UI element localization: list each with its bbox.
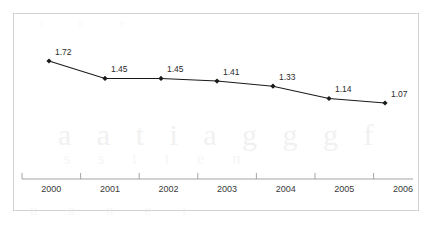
data-point-marker (326, 96, 331, 101)
data-point-marker (46, 58, 51, 63)
x-axis-label-2006: 2006 (383, 185, 423, 194)
chart-plot-area (0, 0, 432, 230)
x-axis-label-2002: 2002 (149, 185, 189, 194)
data-point-marker (158, 76, 163, 81)
data-point-label: 1.41 (223, 68, 240, 77)
data-point-label: 1.45 (111, 65, 128, 74)
x-axis-label-2000: 2000 (31, 185, 71, 194)
data-point-label: 1.07 (391, 90, 408, 99)
chart-canvas: a a t i a g g g f s s t t e n u a n e t … (0, 0, 432, 230)
data-point-marker (102, 76, 107, 81)
series-line-group (46, 58, 387, 105)
x-axis-label-2004: 2004 (266, 185, 306, 194)
data-point-label: 1.33 (279, 73, 296, 82)
x-axis-label-2003: 2003 (207, 185, 247, 194)
data-point-marker (214, 78, 219, 83)
x-axis-label-2005: 2005 (324, 185, 364, 194)
x-axis-label-2001: 2001 (90, 185, 130, 194)
data-point-label: 1.45 (167, 65, 184, 74)
data-point-marker (270, 84, 275, 89)
x-axis-group (22, 173, 413, 179)
data-point-label: 1.72 (55, 48, 72, 57)
data-point-marker (382, 100, 387, 105)
data-point-label: 1.14 (335, 85, 352, 94)
